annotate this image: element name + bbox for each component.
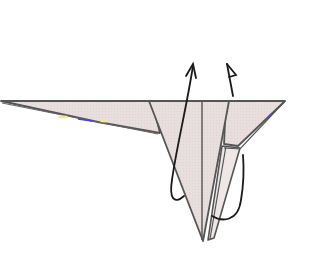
left-wing-flap bbox=[1, 101, 160, 134]
origami-diagram bbox=[0, 0, 309, 277]
right-wing-flap bbox=[224, 101, 285, 149]
yellow-edge-highlight bbox=[100, 120, 108, 123]
yellow-edge-highlight bbox=[58, 116, 68, 119]
